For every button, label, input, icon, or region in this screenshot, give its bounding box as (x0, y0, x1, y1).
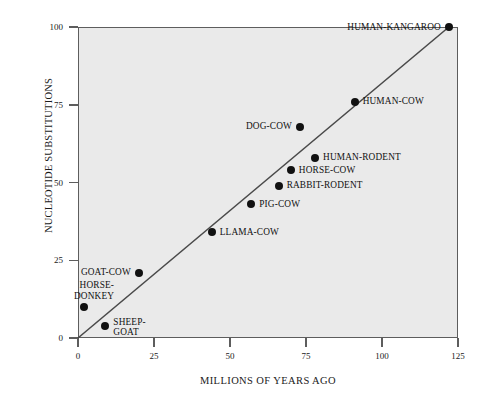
data-point (287, 166, 295, 174)
data-point (80, 303, 88, 311)
data-point-label: GOAT-COW (81, 267, 131, 278)
data-point (296, 123, 304, 131)
data-point-label: HORSE- DONKEY (74, 280, 114, 301)
data-point-label: DOG-COW (246, 121, 292, 132)
regression-line (0, 0, 486, 403)
data-point-label: SHEEP- GOAT (113, 317, 145, 338)
data-point-label: LLAMA-COW (220, 227, 279, 238)
data-point (275, 182, 283, 190)
data-point (208, 228, 216, 236)
data-point (135, 269, 143, 277)
data-point-label: HUMAN-RODENT (323, 152, 401, 163)
data-point-label: HUMAN-KANGAROO (347, 22, 441, 33)
data-point (445, 23, 453, 31)
data-point-label: HUMAN-COW (363, 96, 424, 107)
data-point (311, 154, 319, 162)
data-point-label: RABBIT-RODENT (287, 180, 363, 191)
data-point (351, 98, 359, 106)
data-point-label: PIG-COW (259, 199, 300, 210)
scatter-plot-figure: NUCLEOTIDE SUBSTITUTIONS MILLIONS OF YEA… (0, 0, 486, 403)
data-point (101, 322, 109, 330)
data-point-label: HORSE-COW (299, 165, 356, 176)
